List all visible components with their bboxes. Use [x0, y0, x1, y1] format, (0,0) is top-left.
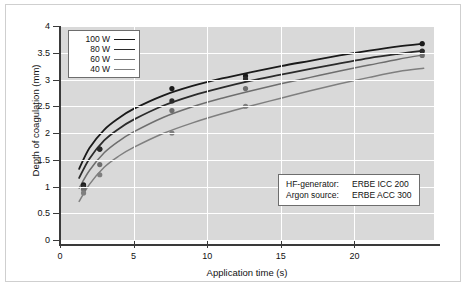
y-axis-title: Depth of coagulation (mm) — [30, 41, 41, 201]
y-axis-tick-label: 4 — [6, 22, 50, 31]
annotation-box: HF-generator: ERBE ICC 200 Argon source:… — [278, 174, 420, 206]
gridline-horizontal — [60, 133, 434, 134]
y-axis-tick — [53, 53, 60, 54]
y-axis-tick — [53, 187, 60, 188]
annotation-row-argon-source: Argon source: ERBE ACC 300 — [286, 190, 412, 201]
gridline-horizontal — [60, 213, 434, 214]
y-axis-tick-label: 1 — [6, 183, 50, 192]
data-point — [169, 86, 174, 91]
x-axis-tick-label: 15 — [266, 252, 296, 261]
legend-item-80w: 80 W — [72, 44, 135, 54]
y-axis-tick-label: 2.5 — [6, 102, 50, 111]
x-axis-tick — [134, 241, 135, 248]
y-axis-tick-label: 0 — [6, 236, 50, 245]
x-axis-tick-label: 0 — [45, 252, 75, 261]
legend-swatch-80w — [114, 49, 135, 50]
y-axis-tick-label: 1.5 — [6, 156, 50, 165]
x-axis-line — [60, 244, 440, 246]
gridline-vertical — [207, 26, 208, 240]
x-axis-tick — [207, 241, 208, 248]
y-axis-tick-label: 3.5 — [6, 49, 50, 58]
x-axis-tick-label: 5 — [119, 252, 149, 261]
data-point — [97, 162, 102, 167]
legend-swatch-100w — [114, 39, 135, 40]
data-point — [97, 172, 102, 177]
figure-frame: 00.511.522.533.5405101520 Depth of coagu… — [5, 4, 461, 282]
legend-label-60w: 60 W — [90, 54, 110, 64]
gridline-horizontal — [60, 80, 434, 81]
gridline-vertical — [281, 26, 282, 240]
x-axis-title: Application time (s) — [60, 267, 434, 278]
gridline-horizontal — [60, 106, 434, 107]
x-axis-tick-label: 20 — [339, 252, 369, 261]
data-point — [169, 98, 174, 103]
data-point — [97, 146, 102, 151]
data-point — [420, 41, 425, 46]
legend: 100 W 80 W 60 W 40 W — [68, 30, 140, 78]
y-axis-tick — [53, 213, 60, 214]
x-axis-tick — [354, 241, 355, 248]
data-point — [169, 108, 174, 113]
y-axis-tick — [53, 240, 60, 241]
legend-item-40w: 40 W — [72, 64, 135, 74]
y-axis-tick-label: 2 — [6, 129, 50, 138]
gridline-horizontal — [60, 160, 434, 161]
y-axis-tick — [53, 106, 60, 107]
data-point — [243, 86, 248, 91]
annotation-key-argon-source: Argon source: — [286, 190, 352, 201]
legend-swatch-40w — [114, 69, 135, 70]
y-axis-tick — [53, 160, 60, 161]
y-axis-tick-label: 0.5 — [6, 209, 50, 218]
y-axis-tick-label: 3 — [6, 76, 50, 85]
legend-item-100w: 100 W — [72, 34, 135, 44]
legend-label-100w: 100 W — [85, 34, 110, 44]
annotation-value-argon-source: ERBE ACC 300 — [352, 190, 412, 201]
annotation-key-hf-generator: HF-generator: — [286, 179, 352, 190]
x-axis-tick — [60, 241, 61, 248]
legend-swatch-60w — [114, 59, 135, 60]
x-axis-tick — [281, 241, 282, 248]
y-axis-tick — [53, 133, 60, 134]
x-axis-tick-label: 10 — [192, 252, 222, 261]
legend-item-60w: 60 W — [72, 54, 135, 64]
annotation-value-hf-generator: ERBE ICC 200 — [352, 179, 409, 190]
y-axis-tick — [53, 26, 60, 27]
data-point — [81, 190, 86, 195]
gridline-vertical — [354, 26, 355, 240]
figure-container: 00.511.522.533.5405101520 Depth of coagu… — [0, 0, 467, 291]
annotation-row-hf-generator: HF-generator: ERBE ICC 200 — [286, 179, 412, 190]
legend-label-80w: 80 W — [90, 44, 110, 54]
legend-label-40w: 40 W — [90, 64, 110, 74]
y-axis-tick — [53, 80, 60, 81]
gridline-horizontal — [60, 26, 434, 27]
